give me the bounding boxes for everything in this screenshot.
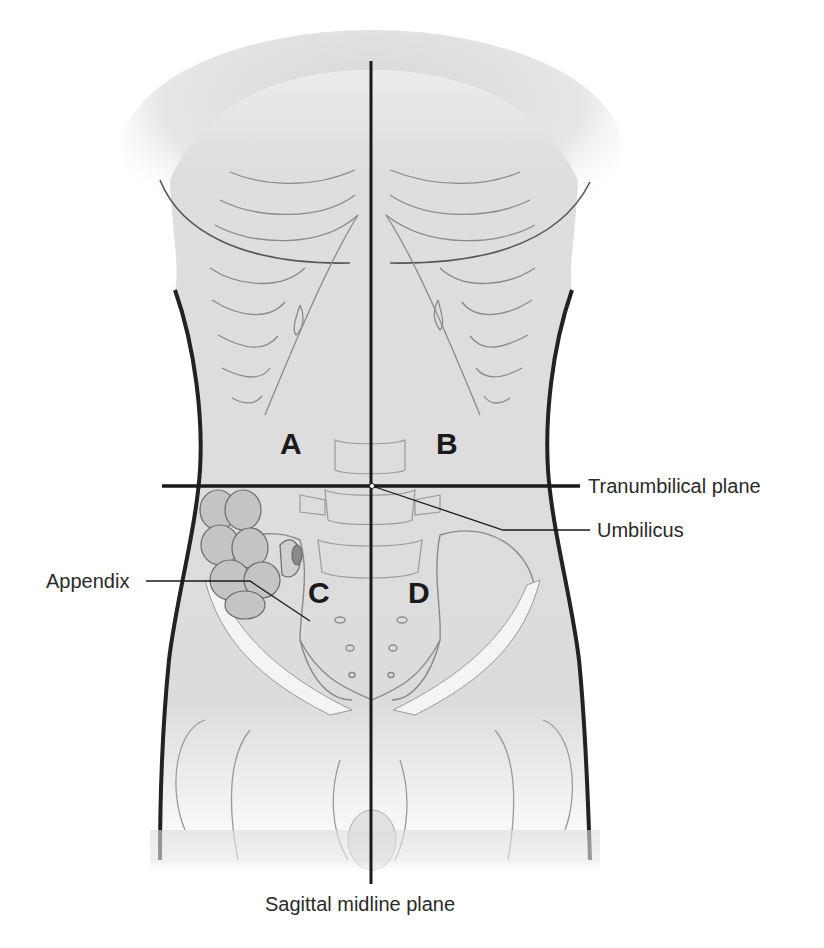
umbilicus-marker [370,484,375,489]
umbilicus-label: Umbilicus [597,520,684,540]
quadrant-label-d: D [408,578,430,608]
sagittal-midline-plane-label: Sagittal midline plane [265,894,455,914]
leg-fade [150,830,600,870]
quadrant-label-a: A [280,429,302,459]
transumbilical-plane-label: Tranumbilical plane [588,476,761,496]
torso-illustration [0,0,824,948]
anatomy-diagram: A B C D Tranumbilical plane Umbilicus Ap… [0,0,824,948]
quadrant-label-b: B [436,429,458,459]
torso-body [159,70,590,860]
appendix-label: Appendix [46,571,129,591]
quadrant-label-c: C [308,578,330,608]
